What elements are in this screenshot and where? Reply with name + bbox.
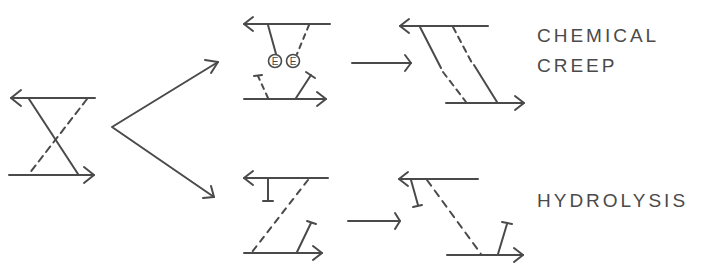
- panel-initial: [9, 90, 95, 183]
- stub-cap: [413, 205, 422, 207]
- solid-link-to-enzyme: [268, 25, 276, 54]
- solid-stub-bottom: [297, 223, 311, 252]
- enzyme-label-2: E: [290, 56, 297, 67]
- dashed-crosslink: [427, 180, 481, 254]
- solid-crosslink: [29, 99, 78, 174]
- dashed-crosslink: [29, 99, 87, 174]
- dashed-link-upper: [453, 27, 472, 63]
- dashed-link-lower: [443, 72, 466, 102]
- arrow-chemical: [352, 55, 411, 71]
- panel-chemical-result: [400, 19, 524, 110]
- label-chemical: CHEMICAL: [537, 25, 659, 47]
- solid-stub-bottom: [498, 224, 507, 254]
- dashed-stub: [258, 76, 268, 98]
- solid-link-lower: [474, 65, 497, 102]
- solid-stub: [296, 75, 311, 98]
- stub-cap: [307, 221, 316, 224]
- solid-stub-top: [411, 180, 418, 205]
- arrowhead-down-icon: [203, 186, 214, 198]
- enzyme-label-1: E: [272, 56, 279, 67]
- branch-arrows: [112, 60, 218, 198]
- dashed-link-to-enzyme: [297, 25, 309, 54]
- stub-cap: [254, 75, 262, 76]
- panel-hydrolysis-intermediate: [244, 171, 328, 260]
- dashed-crosslink: [252, 180, 308, 252]
- branch-lines: [112, 62, 218, 197]
- label-creep: CREEP: [537, 55, 617, 77]
- label-hydrolysis: HYDROLYSIS: [537, 190, 688, 212]
- panel-hydrolysis-result: [399, 172, 523, 262]
- panel-chemical-intermediate: E E: [244, 17, 330, 106]
- arrow-hydrolysis: [348, 213, 400, 229]
- stub-cap: [502, 222, 512, 224]
- solid-link-upper: [420, 27, 441, 68]
